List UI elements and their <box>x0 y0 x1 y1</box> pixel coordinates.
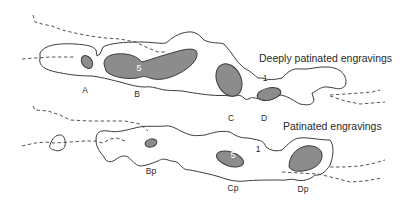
lower-panel: 5 1 Patinated engravings Bp Cp Dp <box>22 106 385 194</box>
inner-label-upper: 5 <box>136 63 141 73</box>
dashed-line-lower-top <box>33 106 148 131</box>
engraving-B <box>104 49 197 79</box>
contour-label-lower: 1 <box>256 144 261 154</box>
engraving-Dp <box>289 146 322 171</box>
label-C: C <box>228 113 234 123</box>
engraving-A <box>79 53 95 70</box>
label-Bp: Bp <box>146 166 157 176</box>
dashed-line-upper-top <box>33 15 165 52</box>
panel-title-lower: Patinated engravings <box>283 120 382 132</box>
dashed-line-upper-right-1 <box>330 90 380 95</box>
dashed-line-upper-right-2 <box>330 96 385 104</box>
label-Dp: Dp <box>298 184 309 194</box>
label-A: A <box>82 85 88 95</box>
engraving-diagram: 5 1 Deeply patinated engravings A B C D … <box>0 0 405 209</box>
inner-label-lower: 5 <box>230 150 235 160</box>
contour-label-upper: 1 <box>263 73 268 83</box>
label-B: B <box>134 89 140 99</box>
dashed-line-lower-left <box>22 138 125 146</box>
dashed-line-lower-right-1 <box>330 160 385 167</box>
upper-panel: 5 1 Deeply patinated engravings A B C D <box>22 15 392 123</box>
engraving-Bp <box>144 138 158 149</box>
engraving-D <box>256 86 282 103</box>
label-D: D <box>261 113 267 123</box>
label-Cp: Cp <box>228 183 239 193</box>
dashed-line-upper-left <box>22 57 75 59</box>
panel-title-upper: Deeply patinated engravings <box>259 52 392 64</box>
